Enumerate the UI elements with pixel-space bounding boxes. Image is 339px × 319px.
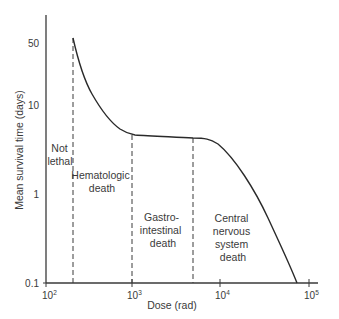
region-cns: Central nervous system death bbox=[213, 212, 253, 263]
x-tick-label: 105 bbox=[304, 289, 319, 301]
y-tick-label: 0.1 bbox=[25, 278, 39, 289]
survival-chart: 0.1 1 10 50 102 103 104 105 Dose (rad) M… bbox=[0, 0, 339, 319]
region-hematologic: Hematologic death bbox=[71, 169, 132, 194]
y-tick-label: 10 bbox=[28, 100, 40, 111]
x-tick-label: 103 bbox=[127, 289, 142, 301]
region-gastrointestinal: Gastro- intestinal death bbox=[140, 211, 184, 249]
survival-curve bbox=[73, 38, 297, 283]
y-tick-label: 1 bbox=[33, 189, 39, 200]
y-tick-label: 50 bbox=[28, 38, 40, 49]
x-tick-label: 104 bbox=[215, 289, 230, 301]
x-tick-label: 102 bbox=[42, 289, 57, 301]
x-axis-title: Dose (rad) bbox=[147, 299, 197, 311]
region-not-lethal: Not lethal bbox=[47, 142, 72, 167]
y-axis-title: Mean survival time (days) bbox=[13, 90, 25, 210]
